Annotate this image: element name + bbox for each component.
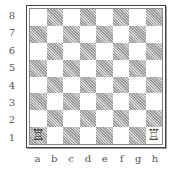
square-b7[interactable] [47, 26, 64, 43]
square-d4[interactable] [80, 77, 97, 94]
square-d3[interactable] [80, 93, 97, 110]
chess-board: ♖♖ [26, 5, 166, 148]
square-c4[interactable] [63, 77, 80, 94]
square-d6[interactable] [80, 43, 97, 60]
square-f6[interactable] [113, 43, 130, 60]
file-label: h [147, 153, 164, 164]
square-a5[interactable] [30, 60, 47, 77]
square-b6[interactable] [47, 43, 64, 60]
rank-label: 5 [6, 62, 18, 73]
rank-label: 2 [6, 114, 18, 125]
rank-label: 7 [6, 27, 18, 38]
file-label: b [46, 153, 63, 164]
square-c6[interactable] [63, 43, 80, 60]
rank-label: 8 [6, 10, 18, 21]
square-h1[interactable]: ♖ [146, 127, 163, 144]
square-f1[interactable] [113, 127, 130, 144]
square-g3[interactable] [129, 93, 146, 110]
square-h3[interactable] [146, 93, 163, 110]
square-c5[interactable] [63, 60, 80, 77]
square-a4[interactable] [30, 77, 47, 94]
file-label: d [79, 153, 96, 164]
board-grid: ♖♖ [29, 8, 163, 145]
square-g6[interactable] [129, 43, 146, 60]
square-b4[interactable] [47, 77, 64, 94]
square-a3[interactable] [30, 93, 47, 110]
square-h7[interactable] [146, 26, 163, 43]
square-e2[interactable] [96, 110, 113, 127]
square-b8[interactable] [47, 9, 64, 26]
square-c1[interactable] [63, 127, 80, 144]
square-d8[interactable] [80, 9, 97, 26]
square-h2[interactable] [146, 110, 163, 127]
square-a6[interactable] [30, 43, 47, 60]
square-e4[interactable] [96, 77, 113, 94]
square-a7[interactable] [30, 26, 47, 43]
square-g5[interactable] [129, 60, 146, 77]
square-e5[interactable] [96, 60, 113, 77]
rank-label: 4 [6, 80, 18, 91]
square-d1[interactable] [80, 127, 97, 144]
square-b5[interactable] [47, 60, 64, 77]
square-g2[interactable] [129, 110, 146, 127]
rank-label: 1 [6, 132, 18, 143]
square-c8[interactable] [63, 9, 80, 26]
square-d5[interactable] [80, 60, 97, 77]
square-d2[interactable] [80, 110, 97, 127]
square-a8[interactable] [30, 9, 47, 26]
rank-label: 3 [6, 97, 18, 108]
square-e1[interactable] [96, 127, 113, 144]
file-label: e [96, 153, 113, 164]
square-g1[interactable] [129, 127, 146, 144]
square-e8[interactable] [96, 9, 113, 26]
square-g7[interactable] [129, 26, 146, 43]
square-f8[interactable] [113, 9, 130, 26]
rook-icon[interactable]: ♖ [32, 128, 45, 143]
square-f3[interactable] [113, 93, 130, 110]
square-f7[interactable] [113, 26, 130, 43]
file-label: c [63, 153, 80, 164]
square-e3[interactable] [96, 93, 113, 110]
square-g8[interactable] [129, 9, 146, 26]
square-h4[interactable] [146, 77, 163, 94]
square-f4[interactable] [113, 77, 130, 94]
square-e7[interactable] [96, 26, 113, 43]
square-a2[interactable] [30, 110, 47, 127]
square-c3[interactable] [63, 93, 80, 110]
square-h5[interactable] [146, 60, 163, 77]
file-label: g [130, 153, 147, 164]
square-h8[interactable] [146, 9, 163, 26]
square-a1[interactable]: ♖ [30, 127, 47, 144]
square-h6[interactable] [146, 43, 163, 60]
square-b1[interactable] [47, 127, 64, 144]
square-f2[interactable] [113, 110, 130, 127]
file-label: a [29, 153, 46, 164]
square-c7[interactable] [63, 26, 80, 43]
rook-icon[interactable]: ♖ [147, 128, 160, 143]
square-d7[interactable] [80, 26, 97, 43]
square-e6[interactable] [96, 43, 113, 60]
square-c2[interactable] [63, 110, 80, 127]
square-b2[interactable] [47, 110, 64, 127]
square-g4[interactable] [129, 77, 146, 94]
file-label: f [113, 153, 130, 164]
rank-label: 6 [6, 45, 18, 56]
square-f5[interactable] [113, 60, 130, 77]
square-b3[interactable] [47, 93, 64, 110]
